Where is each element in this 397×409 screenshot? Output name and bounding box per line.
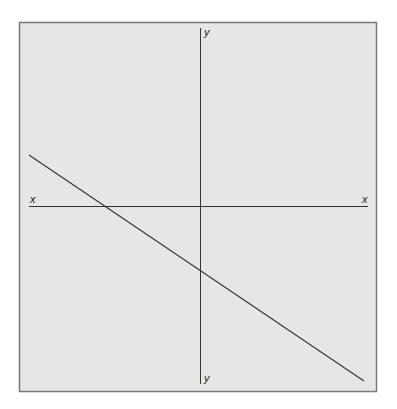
coordinate-plane-figure: y y x x xyxy=(0,0,397,409)
x-axis-label-left: x xyxy=(29,193,36,205)
x-axis-label-right: x xyxy=(361,193,368,205)
